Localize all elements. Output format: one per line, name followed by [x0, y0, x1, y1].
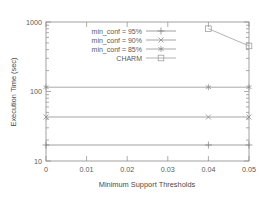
y-axis-title: Execution Time (sec) [9, 57, 18, 126]
chart-legend: min_conf = 95% min_conf = 90% min_conf =… [92, 28, 176, 62]
plus-marker [246, 142, 253, 149]
y-axis-ticks [46, 22, 249, 161]
series-charm [206, 26, 252, 49]
plot-frame [46, 22, 249, 161]
legend-label-min-conf-95: min_conf = 95% [92, 28, 142, 36]
x-axis-title: Minimum Support Thresholds [99, 180, 196, 189]
y-tick-label-1000: 1000 [26, 18, 42, 27]
legend-label-charm: CHARM [116, 55, 142, 62]
plus-marker [43, 142, 50, 149]
x-tick-label-004: 0.04 [201, 165, 215, 174]
y-tick-label-10: 10 [34, 157, 42, 166]
x-tick-label-0: 0 [44, 165, 48, 174]
series-min-conf-85 [43, 84, 251, 90]
x-tick-label-003: 0.03 [161, 165, 175, 174]
x-axis-ticks [46, 22, 249, 161]
plus-marker [158, 28, 165, 35]
x-tick-label-002: 0.02 [120, 165, 134, 174]
legend-label-min-conf-90: min_conf = 90% [92, 37, 142, 45]
x-tick-label-001: 0.01 [80, 165, 94, 174]
chart-figure: 1000 100 10 0 0.01 0.02 0.03 0.04 0.05 M… [0, 0, 265, 203]
plus-marker [205, 142, 212, 149]
y-tick-label-100: 100 [30, 87, 42, 96]
series-min-conf-95 [43, 142, 253, 149]
x-tick-label-005: 0.05 [242, 165, 256, 174]
execution-time-vs-support-chart: 1000 100 10 0 0.01 0.02 0.03 0.04 0.05 M… [0, 0, 265, 203]
series-min-conf-90 [44, 115, 252, 120]
legend-label-min-conf-85: min_conf = 85% [92, 46, 142, 54]
